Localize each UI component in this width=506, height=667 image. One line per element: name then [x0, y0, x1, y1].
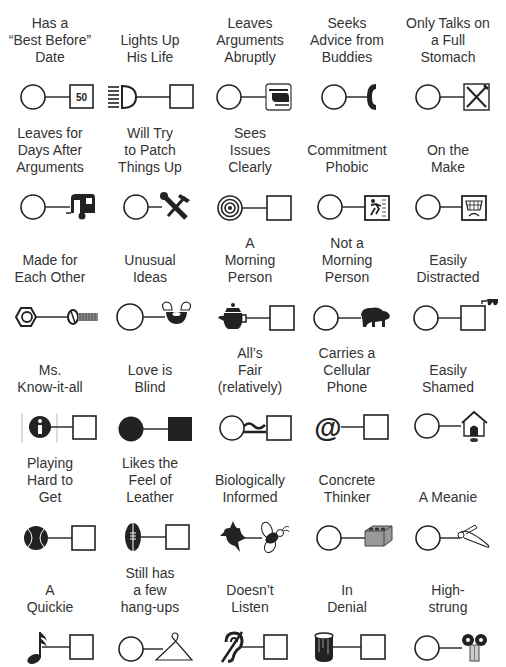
wing-nut-icon — [162, 302, 190, 324]
music-note-icon — [26, 632, 47, 666]
square-icon — [170, 85, 193, 108]
cell-label: Leaves for Days After Arguments — [0, 125, 105, 176]
cinder-block-icon — [365, 526, 392, 546]
cell-label: A Meanie — [393, 489, 503, 506]
cell-unusual-ideas: Unusual Ideas — [100, 220, 200, 330]
approx-equal-connector — [244, 424, 266, 433]
svg-text:@: @ — [314, 412, 341, 443]
square-icon — [70, 635, 93, 659]
circle-icon — [416, 195, 440, 219]
cell-label: Seeks Advice from Buddies — [292, 15, 402, 66]
football-icon — [125, 523, 141, 551]
square-icon — [361, 635, 385, 659]
cell-high-strung: High- strung — [398, 550, 498, 660]
cell-sees-clearly: Sees Issues Clearly — [200, 110, 300, 220]
circle-icon — [124, 195, 148, 219]
cell-know-it-all: Ms. Know-it-all — [0, 330, 100, 440]
circle-icon — [416, 526, 440, 550]
cell-label: In Denial — [292, 582, 402, 616]
cell-label: Will Try to Patch Things Up — [95, 125, 205, 176]
paint-can-icon — [315, 633, 333, 662]
cell-easily-shamed: Easily Shamed — [398, 330, 498, 440]
cell-label: Likes the Feel of Leather — [95, 455, 205, 506]
cell-label: High- strung — [393, 582, 503, 616]
cell-label: Has a “Best Before” Date — [0, 15, 105, 66]
square-icon — [270, 306, 294, 330]
tennis-ball-icon — [24, 526, 48, 550]
circle-icon — [314, 306, 338, 330]
circle-icon — [119, 637, 143, 661]
cell-made-for-each-other: Made for Each Other — [0, 220, 100, 330]
tools-icon — [160, 192, 190, 218]
circle-icon — [415, 636, 439, 660]
at-sign-icon: @ — [314, 412, 341, 443]
cell-label: A Morning Person — [195, 235, 305, 286]
restaurant-icon — [464, 84, 489, 110]
circle-icon — [217, 85, 241, 109]
square-icon — [267, 416, 291, 440]
doghouse-icon — [462, 412, 487, 442]
cell-easily-distracted: Easily Distracted — [398, 220, 498, 330]
safety-pin-icon — [458, 525, 489, 547]
shopping-cart-icon — [462, 196, 486, 220]
cell-label: Ms. Know-it-all — [0, 362, 105, 396]
cell-label: A Quickie — [0, 582, 105, 616]
circle-icon — [415, 414, 439, 438]
cell-best-before: Has a “Best Before” Date 50 — [0, 0, 100, 110]
cell-leaves-for-days: Leaves for Days After Arguments — [0, 110, 100, 220]
camper-trailer-icon — [66, 194, 95, 220]
square-icon — [72, 526, 95, 550]
cell-label: Not a Morning Person — [292, 235, 402, 286]
cell-seeks-advice: Seeks Advice from Buddies — [297, 0, 397, 110]
cell-label: On the Make — [393, 142, 503, 176]
cell-label: Easily Shamed — [393, 362, 503, 396]
wind-up-key-icon — [462, 634, 487, 661]
square-with-glasses-icon — [461, 299, 498, 330]
cell-biologically-informed: Biologically Informed — [200, 440, 300, 550]
filled-square-icon — [168, 417, 192, 441]
circle-icon — [220, 416, 244, 440]
teapot-icon — [218, 303, 246, 329]
square-icon — [364, 415, 388, 439]
cell-label: Easily Distracted — [393, 252, 503, 286]
cell-label: Leaves Arguments Abruptly — [195, 15, 305, 66]
running-exit-icon — [365, 196, 389, 220]
cell-leaves-abruptly: Leaves Arguments Abruptly — [200, 0, 300, 110]
square-icon — [166, 525, 189, 549]
cell-alls-fair: All’s Fair (relatively) — [200, 330, 300, 440]
cell-lights-up: Lights Up His Life — [100, 0, 200, 110]
circle-icon — [414, 306, 438, 330]
telephone-icon — [367, 84, 376, 110]
circle-icon — [318, 195, 342, 219]
cell-label: Biologically Informed — [195, 472, 305, 506]
info-icon — [22, 413, 57, 443]
square-icon — [264, 635, 287, 659]
cell-label: Still has a few hang-ups — [95, 565, 205, 616]
cell-label: Lights Up His Life — [95, 32, 205, 66]
cell-concrete-thinker: Concrete Thinker — [297, 440, 397, 550]
cell-in-denial: In Denial — [297, 550, 397, 660]
headlight-icon — [108, 86, 136, 108]
square-icon — [267, 196, 291, 220]
circle-icon — [21, 195, 45, 219]
hex-nut-icon — [16, 308, 36, 326]
cell-a-meanie: A Meanie — [398, 440, 498, 550]
cell-doesnt-listen: Doesn’t Listen — [200, 550, 300, 660]
target-icon — [218, 196, 242, 220]
circle-icon — [322, 85, 346, 109]
coat-hanger-icon — [156, 633, 192, 660]
cell-hang-ups: Still has a few hang-ups — [100, 550, 200, 660]
cell-hard-to-get: Playing Hard to Get — [0, 440, 100, 550]
square-50-icon: 50 — [70, 85, 93, 108]
bear-icon — [361, 307, 390, 327]
cell-label: Doesn’t Listen — [195, 582, 305, 616]
genogram-chart: Has a “Best Before” Date 50 Lights Up Hi… — [0, 0, 506, 667]
cell-label: Sees Issues Clearly — [195, 125, 305, 176]
cell-full-stomach: Only Talks on a Full Stomach — [398, 0, 498, 110]
helicopter-icon — [266, 84, 291, 110]
cell-label: Only Talks on a Full Stomach — [393, 15, 503, 66]
cell-on-the-make: On the Make — [398, 110, 498, 220]
cell-commitment-phobic: Commitment Phobic — [297, 110, 397, 220]
filled-circle-icon — [119, 417, 144, 442]
bolt-icon — [68, 310, 98, 324]
